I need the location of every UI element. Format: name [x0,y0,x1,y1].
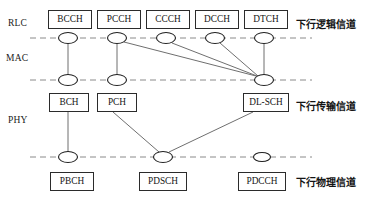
node-ellipse-n-pdsch [154,152,173,163]
connector-dcch-dlsch [220,43,258,76]
channel-mapping-diagram: RLCMACPHY BCCHPCCHCCCHDCCHDTCHBCHPCHDL-S… [0,0,366,203]
group-label-physical: 下行物理信道 [296,174,356,189]
group-label-transport: 下行传输信道 [296,98,356,113]
channel-box-pch[interactable]: PCH [97,93,137,112]
node-ellipse-n-pbch [59,152,78,163]
channel-box-pdsch[interactable]: PDSCH [139,172,187,191]
channel-box-dcch[interactable]: DCCH [195,10,239,29]
layer-label-mac: MAC [6,53,28,63]
channel-box-bcch[interactable]: BCCH [48,10,92,29]
channel-box-pbch[interactable]: PBCH [50,172,94,191]
layer-label-rlc: RLC [8,18,27,28]
channel-box-dtch[interactable]: DTCH [244,10,288,29]
channel-node-ellipses [59,33,274,163]
connector-pcch-dlsch [124,42,256,76]
channel-box-pdcch[interactable]: PDCCH [238,172,286,191]
channel-box-dlsch[interactable]: DL-SCH [243,93,289,112]
node-ellipse-n-bcch [59,33,78,44]
channel-box-ccch[interactable]: CCCH [146,10,190,29]
channel-box-bch[interactable]: BCH [49,93,89,112]
channel-box-pcch[interactable]: PCCH [97,10,141,29]
node-ellipse-n-pch [108,75,127,86]
node-ellipse-n-ccch [157,33,176,44]
connector-ccch-dlsch [172,43,257,76]
node-ellipse-n-dcch [206,33,225,44]
connector-pch-pdsch [113,112,159,152]
group-label-logical: 下行逻辑信道 [296,16,356,31]
node-ellipse-n-dtch [255,33,274,44]
layer-label-phy: PHY [8,115,28,125]
node-ellipse-n-bch [59,75,78,86]
node-ellipse-n-dlsch [255,75,274,86]
connector-dlsch-pdsch [169,112,253,152]
node-ellipse-n-pcch [108,33,127,44]
node-ellipse-n-pdcch [254,153,271,162]
